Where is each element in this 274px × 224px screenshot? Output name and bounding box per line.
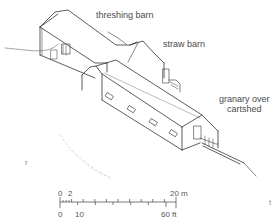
corner-mark-right: t	[269, 198, 271, 207]
scale-bar	[60, 197, 176, 208]
scale-metric-end: 20 m	[170, 189, 188, 198]
label-straw-barn: straw barn	[163, 39, 205, 49]
corner-mark-left: r	[25, 158, 28, 167]
scale-imperial-end: 60 ft	[161, 210, 177, 219]
label-granary-line2: cartshed	[219, 104, 270, 114]
scale-imperial-zero: 0	[58, 210, 62, 219]
label-threshing-barn: threshing barn	[96, 10, 154, 20]
scale-metric-two: 2	[68, 189, 72, 198]
threshing-barn-shape	[40, 10, 137, 78]
scale-imperial-ten: 10	[75, 210, 84, 219]
label-granary-cartshed: granary over cartshed	[219, 94, 270, 114]
ground-line	[5, 44, 58, 51]
label-granary-line1: granary over	[219, 94, 270, 104]
scale-metric-zero: 0	[58, 189, 62, 198]
